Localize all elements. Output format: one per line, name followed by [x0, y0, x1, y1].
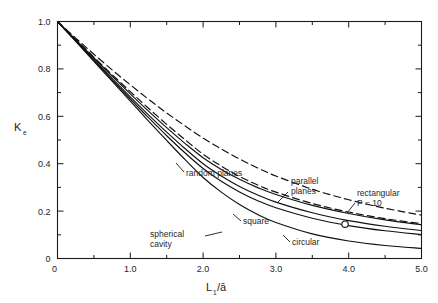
annotation-rectangular-line1: rectangular	[357, 188, 400, 198]
annotation-square: square	[243, 216, 269, 226]
y-tick-label-0: 0	[45, 254, 50, 264]
y-axis-title-sub: e	[23, 129, 27, 136]
x-tick-label-2: 2.0	[197, 264, 210, 274]
y-axis-tick-labels: 00.20.40.60.81.0	[38, 17, 51, 264]
data-markers	[342, 221, 348, 227]
y-axis-title-main: K	[14, 121, 22, 133]
y-tick-label-1: 0.2	[38, 207, 51, 217]
x-tick-label-3: 3.0	[270, 264, 283, 274]
x-axis-title-main: L	[206, 281, 212, 293]
annotation-random-planes: random planes	[186, 168, 242, 178]
x-axis-ticks	[58, 22, 422, 259]
x-tick-label-5: 5.0	[415, 264, 428, 274]
x-axis-tick-labels: 01.02.03.04.05.0	[52, 264, 428, 274]
data-marker-0	[342, 221, 348, 227]
curve-spherical-cavity	[58, 22, 422, 249]
leader-spherical-cavity	[205, 232, 222, 236]
y-axis-title: K e	[14, 121, 27, 136]
x-tick-label-4: 4.0	[342, 264, 355, 274]
x-axis-title: L 1 /ā	[206, 281, 227, 296]
annotation-rectangular-line2: P = 10	[357, 198, 382, 208]
annotation-parallel-planes-line1: parallel	[291, 176, 319, 186]
leader-random-planes	[176, 163, 184, 172]
x-tick-label-0: 0	[52, 264, 57, 274]
leader-rectangular	[347, 203, 355, 213]
leader-circular	[283, 235, 290, 242]
y-axis-ticks	[58, 22, 422, 259]
annotation-spherical-cavity-line2: cavity	[150, 239, 172, 249]
annotation-circular: circular	[292, 237, 320, 247]
x-axis-title-rest: /ā	[217, 281, 227, 293]
y-tick-label-5: 1.0	[38, 17, 51, 27]
annotation-parallel-planes-line2: planes	[291, 186, 316, 196]
y-tick-label-2: 0.4	[38, 159, 51, 169]
annotation-spherical-cavity-line1: spherical	[150, 229, 184, 239]
plot-frame	[58, 22, 422, 259]
y-tick-label-4: 0.8	[38, 64, 51, 74]
data-curves	[58, 22, 422, 249]
chart-svg: 00.20.40.60.81.0 01.02.03.04.05.0 random…	[0, 0, 438, 303]
y-tick-label-3: 0.6	[38, 112, 51, 122]
leader-square	[233, 214, 241, 221]
x-tick-label-1: 1.0	[124, 264, 137, 274]
figure-container: 00.20.40.60.81.0 01.02.03.04.05.0 random…	[0, 0, 438, 303]
